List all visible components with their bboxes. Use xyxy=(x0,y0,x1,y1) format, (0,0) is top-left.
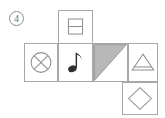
divided-rectangle-icon xyxy=(59,11,92,43)
puzzle-figure: 4 xyxy=(0,0,165,118)
net-face-top xyxy=(58,10,93,44)
eighth-note-icon xyxy=(59,44,92,81)
circled-cross-icon xyxy=(25,44,57,81)
triangle-with-bar-icon xyxy=(129,44,157,81)
net-face-arch xyxy=(128,43,158,82)
filled-triangle-icon xyxy=(94,44,127,81)
diamond-outline-icon xyxy=(123,83,157,114)
net-face-diamond xyxy=(122,82,158,115)
net-face-shaded-triangle xyxy=(93,43,128,82)
net-face-note xyxy=(58,43,93,82)
net-face-left xyxy=(24,43,58,82)
option-number-badge: 4 xyxy=(9,11,24,26)
